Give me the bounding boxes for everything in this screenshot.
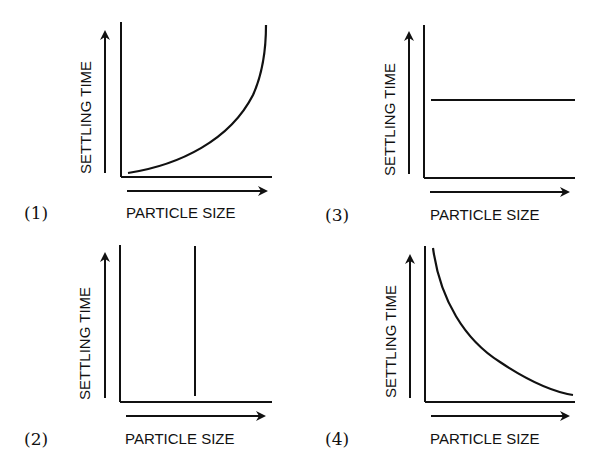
x-axis-label: PARTICLE SIZE [125, 430, 234, 447]
y-axis-label: SETTLING TIME [76, 287, 93, 400]
y-axis-label: SETTLING TIME [382, 285, 399, 398]
y-axis-label: SETTLING TIME [381, 63, 398, 176]
x-axis-label: PARTICLE SIZE [126, 204, 235, 221]
y-axis-label: SETTLING TIME [77, 61, 94, 174]
graph-2: SETTLING TIME PARTICLE SIZE (2) [24, 245, 272, 449]
x-axis-label: PARTICLE SIZE [430, 430, 539, 447]
graph-3: SETTLING TIME PARTICLE SIZE (3) [325, 25, 575, 225]
option-label: (1) [24, 203, 48, 223]
curve [128, 25, 266, 173]
option-label: (3) [325, 205, 349, 225]
settling-time-graphs: SETTLING TIME PARTICLE SIZE (1) SETTLING… [0, 0, 596, 460]
x-axis-label: PARTICLE SIZE [430, 206, 539, 223]
option-label: (4) [325, 429, 349, 449]
curve [433, 248, 573, 395]
graph-1: SETTLING TIME PARTICLE SIZE (1) [24, 22, 272, 223]
option-label: (2) [24, 429, 48, 449]
graph-4: SETTLING TIME PARTICLE SIZE (4) [325, 246, 575, 449]
